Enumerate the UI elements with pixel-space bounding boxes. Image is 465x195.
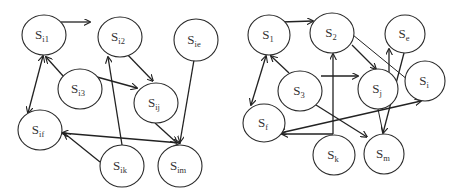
state-node-ik: Sik bbox=[100, 145, 144, 187]
edge-arrow bbox=[180, 60, 194, 142]
edge-arrow bbox=[64, 133, 100, 162]
state-node-2: S2 bbox=[310, 13, 354, 53]
edge-arrow bbox=[316, 105, 367, 137]
state-node-k: Sk bbox=[313, 135, 355, 175]
state-node-i2: Si2 bbox=[98, 17, 142, 57]
edge-arrow bbox=[281, 21, 313, 22]
state-node-if: Sif bbox=[18, 110, 62, 150]
state-node-ij: Sij bbox=[134, 83, 178, 123]
edge-arrow bbox=[352, 45, 376, 69]
left-graph-nodes: Si1Si2SieSi3SijSifSikSim bbox=[18, 15, 218, 187]
edge-arrow bbox=[28, 56, 43, 113]
state-node-e: Se bbox=[385, 15, 425, 53]
state-node-3: S3 bbox=[278, 71, 322, 111]
state-node-j: Sj bbox=[358, 69, 398, 109]
left-graph: Si1Si2SieSi3SijSifSikSim bbox=[18, 15, 218, 187]
edge-arrow bbox=[46, 57, 64, 77]
state-node-i: Si bbox=[405, 61, 445, 101]
state-transition-diagrams: Si1Si2SieSi3SijSifSikSim S1S2SeS3SjSiSfS… bbox=[0, 0, 465, 195]
edge-arrow bbox=[97, 77, 137, 88]
state-node-ie: Sie bbox=[174, 19, 218, 61]
state-node-m: Sm bbox=[364, 134, 404, 174]
edge-arrow bbox=[378, 109, 383, 133]
right-graph: S1S2SeS3SjSiSfSkSm bbox=[243, 13, 445, 175]
state-node-i1: Si1 bbox=[22, 15, 66, 55]
edge-arrow bbox=[108, 57, 122, 145]
right-graph-nodes: S1S2SeS3SjSiSfSkSm bbox=[243, 13, 445, 175]
edge-arrow bbox=[251, 56, 266, 105]
state-node-i3: Si3 bbox=[58, 69, 102, 109]
edge-arrow bbox=[271, 56, 289, 73]
state-node-f: Sf bbox=[243, 104, 285, 142]
edge-arrow bbox=[155, 123, 177, 143]
state-node-im: Sim bbox=[158, 145, 202, 187]
state-node-1: S1 bbox=[248, 15, 290, 55]
